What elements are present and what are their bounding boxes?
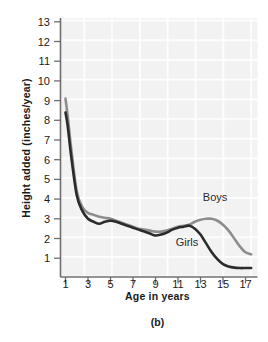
y-tick-label: 2 — [44, 233, 50, 245]
x-tick-label: 3 — [85, 278, 91, 290]
y-tick-label: 1 — [44, 252, 50, 264]
girls-series-label: Girls — [176, 236, 199, 248]
y-tick-label: 13 — [38, 16, 50, 28]
y-tick-label: 8 — [44, 114, 50, 126]
x-tick-label: 9 — [152, 278, 158, 290]
y-tick-label: 10 — [38, 75, 50, 87]
y-tick-label: 5 — [44, 173, 50, 185]
x-tick-label: 17 — [239, 278, 251, 290]
figure-caption: (b) — [55, 316, 260, 328]
x-tick-label: 7 — [130, 278, 136, 290]
x-tick-label: 11 — [172, 278, 183, 290]
y-axis-tick-labels: 1 2 3 4 5 6 7 8 9 10 11 12 13 — [38, 16, 50, 264]
plot-background-grid — [61, 18, 258, 277]
x-axis-title: Age in years — [55, 290, 260, 302]
x-tick-label: 5 — [107, 278, 113, 290]
y-axis-title: Height added (inches/year) — [20, 43, 32, 253]
y-tick-label: 9 — [44, 95, 50, 107]
y-tick-label: 7 — [44, 134, 50, 146]
growth-rate-chart-figure: Height added (inches/year) — [0, 0, 268, 342]
chart-plot-area: 1 2 3 4 5 6 7 8 9 10 11 12 13 1 — [0, 0, 268, 290]
x-tick-label: 15 — [217, 278, 229, 290]
x-axis-tick-labels: 1 3 5 7 9 11 13 15 17 — [62, 278, 251, 290]
y-tick-label: 3 — [44, 213, 50, 225]
boys-series-label: Boys — [203, 191, 228, 203]
x-tick-label: 13 — [194, 278, 206, 290]
x-tick-label: 1 — [62, 278, 68, 290]
y-tick-label: 4 — [44, 193, 50, 205]
y-tick-label: 12 — [38, 36, 50, 48]
y-axis-ticks — [54, 22, 61, 258]
y-tick-label: 6 — [44, 154, 50, 166]
y-tick-label: 11 — [39, 55, 50, 67]
